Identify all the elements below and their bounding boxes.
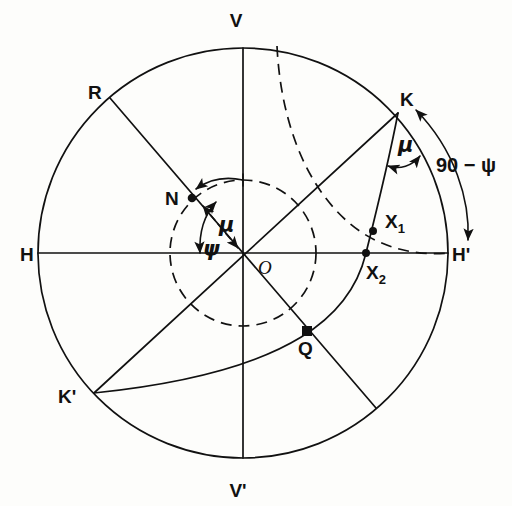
dashed-great-circle-V-Hprime (277, 46, 448, 254)
label-mu-at-K: μ (397, 133, 413, 157)
label-V-prime: V' (229, 480, 246, 501)
label-H-prime: H' (452, 244, 470, 265)
label-K-prime: K' (58, 386, 76, 407)
label-mu-center: μ (218, 213, 234, 237)
label-K: K (400, 89, 414, 110)
label-V: V (230, 10, 243, 31)
arc-arrow-near-N (196, 178, 243, 189)
stereographic-projection-diagram: O --> lower-right rim (passes through Q)… (0, 0, 512, 506)
label-O: O (258, 257, 272, 278)
label-psi-center: ψ (203, 237, 220, 261)
point-marker-X1 (369, 227, 377, 235)
label-N: N (165, 188, 179, 209)
arc-mu-at-K (388, 156, 420, 168)
point-marker-X2 (362, 249, 370, 257)
figure-root: O --> lower-right rim (passes through Q)… (0, 0, 512, 506)
label-H: H (20, 244, 34, 265)
label-90-minus-psi: 90 − ψ (436, 154, 496, 176)
label-Q: Q (298, 338, 313, 359)
point-marker-N (188, 194, 197, 203)
label-X1: X1 (385, 211, 405, 236)
point-marker-Q (302, 326, 312, 336)
label-X2: X2 (366, 262, 386, 287)
label-R: R (88, 82, 102, 103)
